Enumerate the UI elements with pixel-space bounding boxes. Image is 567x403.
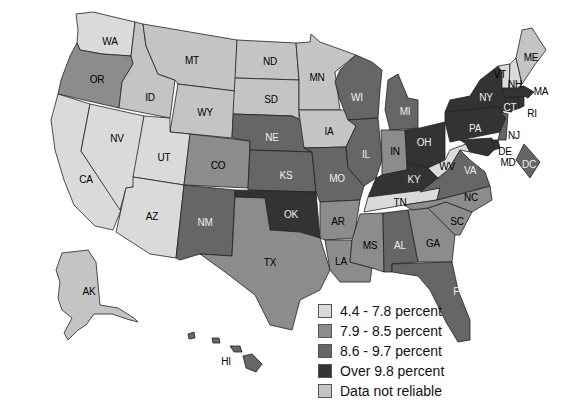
label-GA: GA <box>426 238 440 249</box>
label-OR: OR <box>90 74 105 85</box>
label-RI: RI <box>527 108 537 119</box>
legend-label: 8.6 - 9.7 percent <box>340 343 442 359</box>
legend-swatch <box>318 384 332 398</box>
label-NV: NV <box>110 133 124 144</box>
label-MO: MO <box>329 173 345 184</box>
legend-item: 7.9 - 8.5 percent <box>318 321 444 341</box>
label-SD: SD <box>264 94 278 105</box>
label-MT: MT <box>185 55 199 66</box>
label-MI: MI <box>400 106 411 117</box>
label-KS: KS <box>280 170 293 181</box>
label-ID: ID <box>145 92 155 103</box>
label-TN: TN <box>394 197 407 208</box>
label-IA: IA <box>324 126 333 137</box>
legend-label: Over 9.8 percent <box>340 363 444 379</box>
state-HI-oahu[interactable] <box>212 338 220 343</box>
legend-item: 4.4 - 7.8 percent <box>318 301 444 321</box>
label-SC: SC <box>450 216 464 227</box>
label-NC: NC <box>464 192 478 203</box>
label-NY: NY <box>479 92 493 103</box>
label-IN: IN <box>390 146 400 157</box>
state-HI-kauai[interactable] <box>188 332 195 339</box>
label-CT: CT <box>504 102 517 113</box>
label-AL: AL <box>394 240 406 251</box>
label-MS: MS <box>363 240 378 251</box>
label-UT: UT <box>158 152 171 163</box>
label-OK: OK <box>284 209 298 220</box>
label-VT: VT <box>494 69 506 80</box>
legend-item: Over 9.8 percent <box>318 361 444 381</box>
label-MN: MN <box>309 72 324 83</box>
legend-label: 4.4 - 7.8 percent <box>340 303 442 319</box>
legend-swatch <box>318 344 332 358</box>
label-WA: WA <box>102 36 117 47</box>
label-NH: NH <box>508 79 522 90</box>
label-AZ: AZ <box>146 211 158 222</box>
legend-item: 8.6 - 9.7 percent <box>318 341 444 361</box>
label-ME: ME <box>524 52 539 63</box>
label-PA: PA <box>469 123 481 134</box>
legend-label: 7.9 - 8.5 percent <box>340 323 442 339</box>
us-choropleth-map <box>0 0 567 403</box>
label-AK: AK <box>83 286 96 297</box>
label-NM: NM <box>197 217 212 228</box>
label-WI: WI <box>351 92 363 103</box>
label-VA: VA <box>464 165 476 176</box>
state-MI[interactable] <box>385 74 418 130</box>
label-WY: WY <box>197 107 213 118</box>
label-TX: TX <box>264 257 276 268</box>
state-WA[interactable] <box>76 12 135 56</box>
label-CO: CO <box>211 160 226 171</box>
state-AK[interactable] <box>56 250 138 340</box>
legend-item: Data not reliable <box>318 381 444 401</box>
label-CA: CA <box>79 174 93 185</box>
state-HI-maui[interactable] <box>230 346 242 352</box>
label-DC: DC <box>522 159 536 170</box>
label-KY: KY <box>408 174 421 185</box>
label-AR: AR <box>331 216 345 227</box>
legend-swatch <box>318 324 332 338</box>
legend-swatch <box>318 304 332 318</box>
label-MD: MD <box>500 157 515 168</box>
label-HI: HI <box>221 356 231 367</box>
label-FL: FL <box>453 286 464 297</box>
label-NJ: NJ <box>508 130 520 141</box>
label-OH: OH <box>417 137 432 148</box>
label-LA: LA <box>335 256 347 267</box>
label-IL: IL <box>362 149 370 160</box>
label-MA: MA <box>534 86 549 97</box>
label-NE: NE <box>265 132 279 143</box>
label-WV: WV <box>439 161 455 172</box>
legend-label: Data not reliable <box>340 383 442 399</box>
legend: 4.4 - 7.8 percent 7.9 - 8.5 percent 8.6 … <box>318 301 444 401</box>
label-ND: ND <box>263 56 277 67</box>
label-DE: DE <box>498 146 512 157</box>
state-HI-big[interactable] <box>243 354 262 372</box>
legend-swatch <box>318 364 332 378</box>
